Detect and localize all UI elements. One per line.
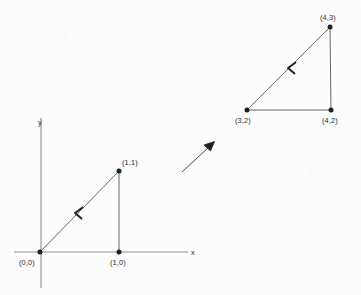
vertex-label-4-2: (4,2) (322, 116, 338, 125)
vertex-label-3-2: (3,2) (235, 116, 251, 125)
vertex-dot-1-0 (117, 250, 122, 255)
vertex-dot-4-3 (328, 25, 333, 30)
vertex-label-1-1: (1,1) (122, 158, 138, 167)
y-axis-label: y (38, 118, 42, 127)
vertex-label-1-0: (1,0) (110, 258, 126, 267)
source-triangle-hypotenuse (40, 171, 119, 252)
transformation-arrow (182, 142, 215, 173)
geometry-diagram: y x (0,0) (1,0) (1,1) (3,2) (4,2) (4,3) (0, 0, 361, 295)
vertex-dot-4-2 (329, 108, 334, 113)
vertex-label-4-3: (4,3) (320, 13, 336, 22)
source-triangle (38, 169, 122, 255)
vertex-dot-1-1 (117, 169, 122, 174)
vertex-dot-3-2 (245, 108, 250, 113)
vertex-dot-0-0 (38, 250, 43, 255)
target-triangle-vertical-leg (330, 27, 331, 110)
vertex-label-0-0: (0,0) (19, 258, 35, 267)
target-triangle (245, 25, 334, 113)
source-direction-chevron-icon (75, 208, 83, 219)
figure-canvas: y x (0,0) (1,0) (1,1) (3,2) (4,2) (4,3) (0, 0, 361, 295)
target-direction-chevron-icon (288, 63, 296, 74)
x-axis-label: x (191, 248, 195, 257)
transformation-arrow-shaft (182, 147, 209, 172)
coordinate-axes (14, 118, 188, 288)
